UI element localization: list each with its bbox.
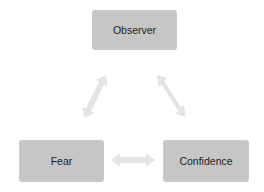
node-observer: Observer bbox=[92, 10, 177, 50]
node-confidence-label: Confidence bbox=[179, 155, 232, 167]
node-observer-label: Observer bbox=[113, 24, 156, 36]
node-fear: Fear bbox=[19, 140, 104, 182]
node-fear-label: Fear bbox=[51, 155, 73, 167]
arrow-observer-confidence bbox=[157, 75, 186, 117]
node-confidence: Confidence bbox=[163, 140, 249, 182]
arrow-fear-confidence bbox=[111, 154, 155, 167]
arrow-observer-fear bbox=[83, 75, 108, 118]
